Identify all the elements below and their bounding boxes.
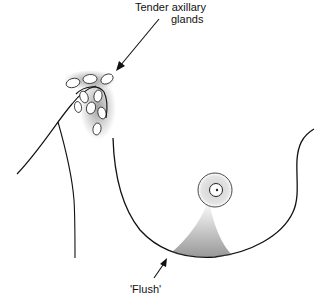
axillary-fold-line [58,122,75,258]
axillary-glands-label-line1: Tender axillary [135,1,206,13]
axillary-glands-label-line2: glands [171,13,203,25]
flush-label: 'Flush' [130,283,161,295]
medical-illustration: Tender axillary glands 'Flush' [0,0,332,304]
flush-arrow [154,258,167,278]
nipple-tip [216,189,218,191]
flush-stipple [172,206,232,257]
axillary-arrow [116,19,159,71]
